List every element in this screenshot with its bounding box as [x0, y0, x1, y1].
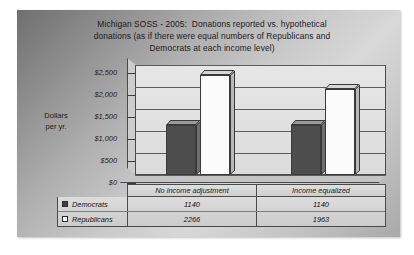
bar-side — [230, 71, 235, 175]
y-axis-tick-label: $1,500 — [61, 112, 117, 121]
bar-side — [355, 84, 360, 175]
bar-democrats-1 — [291, 125, 321, 175]
table-cell-1-1: 1963 — [256, 212, 385, 226]
category-label-0: No income adjustment — [128, 185, 256, 196]
bar-face — [166, 125, 196, 175]
y-axis-tick-mark — [127, 73, 136, 74]
legend-entry-republicans: Republicans — [58, 212, 128, 226]
bar-face — [325, 89, 355, 175]
category-label-1: Income equalized — [256, 185, 385, 196]
legend-label: Democrats — [72, 200, 108, 209]
chart-data-table: Democrats11401140Republicans22661963 — [57, 197, 386, 227]
bar-republicans-1 — [325, 89, 355, 175]
table-cell-1-0: 2266 — [128, 212, 256, 226]
y-axis-tick-mark — [127, 139, 136, 140]
gridline — [135, 65, 386, 66]
table-row: Democrats11401140 — [58, 197, 385, 211]
bar-top — [166, 120, 201, 125]
bar-democrats-0 — [166, 125, 196, 175]
gridline — [135, 175, 386, 176]
y-axis-tick-mark — [127, 95, 136, 96]
category-axis: No income adjustmentIncome equalized — [127, 184, 386, 197]
y-axis-tick-label: $2,500 — [61, 68, 117, 77]
y-axis-tick-label: $2,000 — [61, 90, 117, 99]
plot-area — [127, 65, 386, 183]
slide-canvas: Michigan SOSS - 2005: Donations reported… — [0, 0, 414, 255]
legend-label: Republicans — [72, 215, 113, 224]
y-axis-tick-label: $500 — [61, 156, 117, 165]
legend-swatch-icon — [62, 201, 68, 207]
table-cell-0-1: 1140 — [256, 197, 385, 211]
y-axis-tick-mark — [127, 117, 136, 118]
bar-republicans-0 — [200, 75, 230, 175]
chart-floor — [120, 175, 386, 183]
legend-entry-democrats: Democrats — [58, 197, 128, 211]
table-cell-0-0: 1140 — [128, 197, 256, 211]
y-axis-tick-mark — [127, 161, 136, 162]
y-axis-tick-label: $1,000 — [61, 134, 117, 143]
table-row: Republicans22661963 — [58, 211, 385, 226]
bar-face — [291, 125, 321, 175]
legend-swatch-icon — [62, 216, 68, 222]
bar-face — [200, 75, 230, 175]
bar-top — [200, 70, 235, 75]
bar-top — [291, 120, 326, 125]
bar-top — [325, 84, 360, 89]
y-axis-tick-label: $0 — [61, 178, 117, 187]
presentation-slide: Michigan SOSS - 2005: Donations reported… — [17, 10, 400, 237]
